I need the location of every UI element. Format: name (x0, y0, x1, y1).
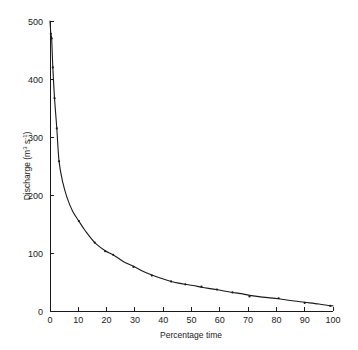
discharge-data-points (50, 33, 332, 307)
data-point (53, 97, 55, 99)
x-tick-label-30: 30 (130, 315, 140, 325)
x-axis-title: Percentage time (160, 330, 222, 340)
data-point (216, 288, 218, 290)
y-axis-title-mid: s (22, 140, 32, 147)
data-point (56, 127, 58, 129)
data-point (184, 283, 186, 285)
y-tick-label-0: 0 (38, 307, 43, 317)
x-tick-label-40: 40 (158, 315, 168, 325)
x-tick-label-20: 20 (102, 315, 112, 325)
x-tick-label-50: 50 (186, 315, 196, 325)
x-tick-label-90: 90 (300, 315, 310, 325)
y-axis-tick-marks (50, 21, 54, 311)
data-point (151, 275, 153, 277)
data-point (51, 37, 53, 39)
data-point (329, 305, 331, 307)
data-point (52, 66, 54, 68)
data-point (78, 220, 80, 222)
data-point (304, 302, 306, 304)
data-point (94, 241, 96, 243)
flow-duration-chart-figure: 0102030405060708090100 0100200300400500 … (0, 0, 358, 350)
data-point (104, 250, 106, 252)
y-tick-label-400: 400 (28, 75, 43, 85)
data-point (278, 297, 280, 299)
x-tick-label-80: 80 (271, 315, 281, 325)
data-point (132, 266, 134, 268)
x-tick-label-60: 60 (215, 315, 225, 325)
data-point (170, 280, 172, 282)
x-tick-label-0: 0 (47, 315, 52, 325)
data-point (231, 291, 233, 293)
chart-plot-area: 0102030405060708090100 0100200300400500 … (0, 0, 358, 350)
discharge-curve (50, 21, 333, 306)
y-tick-label-100: 100 (28, 249, 43, 259)
data-point (248, 295, 250, 297)
data-point (112, 254, 114, 256)
x-tick-label-70: 70 (243, 315, 253, 325)
x-axis-tick-labels: 0102030405060708090100 (47, 315, 340, 325)
y-axis-title-base: Discharge (m (22, 150, 32, 201)
x-tick-label-100: 100 (325, 315, 340, 325)
y-axis-title-tail: ) (22, 131, 32, 134)
data-point (58, 160, 60, 162)
y-axis-title: Discharge (m3 s-1) (22, 131, 32, 200)
data-point (50, 33, 52, 35)
x-axis-tick-marks (50, 307, 333, 311)
y-tick-label-500: 500 (28, 17, 43, 27)
x-tick-label-10: 10 (73, 315, 83, 325)
data-point (200, 286, 202, 288)
